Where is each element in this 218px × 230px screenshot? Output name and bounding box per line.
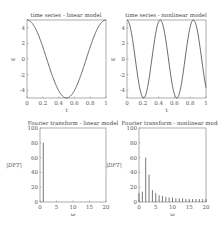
y-tick-label: 4: [22, 25, 26, 31]
subplot-title: time series - nonlinear model: [125, 12, 207, 18]
y-tick-label: 0: [35, 199, 39, 205]
y-tick-label: -2: [120, 72, 125, 78]
x-tick-label: 0.8: [186, 100, 195, 106]
subplot-4: Fourier transform - nonlinear model05101…: [106, 120, 218, 217]
y-tick-label: 60: [31, 155, 38, 161]
x-tick-label: 15: [186, 204, 193, 210]
y-tick-label: 0: [22, 56, 26, 62]
y-tick-label: -2: [20, 72, 25, 78]
figure: time series - linear model00.20.40.60.81…: [0, 0, 218, 230]
x-tick-label: 20: [103, 204, 110, 210]
x-tick-label: 10: [70, 204, 77, 210]
y-axis-label: |DFT|: [106, 162, 122, 169]
x-tick-label: 0: [25, 100, 29, 106]
x-axis-label: ω: [71, 211, 76, 217]
x-axis-label: t: [65, 107, 68, 113]
y-tick-label: 20: [31, 184, 38, 190]
series-line: [127, 20, 206, 98]
y-tick-label: 0: [134, 199, 138, 205]
y-tick-label: 0: [122, 56, 126, 62]
x-tick-label: 0.6: [170, 100, 179, 106]
plot-frame: [127, 20, 206, 98]
x-tick-label: 1: [204, 100, 208, 106]
x-tick-label: 0.2: [138, 100, 147, 106]
y-tick-label: 100: [28, 125, 39, 131]
series-line: [27, 20, 106, 98]
x-tick-label: 0.4: [154, 100, 163, 106]
x-tick-label: 0.6: [70, 100, 79, 106]
x-tick-label: 0: [137, 204, 141, 210]
subplot-1: time series - linear model00.20.40.60.81…: [11, 12, 108, 113]
y-tick-label: -4: [20, 87, 26, 93]
y-tick-label: 100: [127, 125, 138, 131]
y-tick-label: 2: [122, 40, 126, 46]
y-tick-label: -4: [120, 87, 126, 93]
plot-frame: [40, 128, 106, 202]
y-axis-label: |DFT|: [6, 162, 22, 169]
x-tick-label: 0: [125, 100, 129, 106]
x-tick-label: 0.2: [38, 100, 47, 106]
x-tick-label: 0.8: [86, 100, 95, 106]
x-tick-label: 20: [203, 204, 210, 210]
x-tick-label: 15: [86, 204, 93, 210]
y-tick-label: 80: [130, 140, 137, 146]
subplot-3: Fourier transform - linear model05101520…: [6, 120, 118, 217]
y-tick-label: 80: [31, 140, 38, 146]
x-tick-label: 1: [104, 100, 108, 106]
plot-frame: [27, 20, 106, 98]
y-tick-label: 40: [31, 169, 38, 175]
y-tick-label: 20: [130, 184, 137, 190]
x-tick-label: 0: [38, 204, 42, 210]
x-axis-label: ω: [170, 211, 175, 217]
x-axis-label: t: [165, 107, 168, 113]
y-tick-label: 4: [122, 25, 126, 31]
subplot-2: time series - nonlinear model00.20.40.60…: [111, 12, 208, 113]
y-tick-label: 60: [130, 155, 137, 161]
subplot-title: time series - linear model: [30, 12, 101, 18]
x-tick-label: 5: [154, 204, 158, 210]
subplot-title: Fourier transform - linear model: [28, 120, 119, 126]
y-axis-label: w: [11, 56, 16, 62]
x-tick-label: 0.4: [54, 100, 63, 106]
y-tick-label: 2: [22, 40, 26, 46]
y-axis-label: w: [111, 56, 116, 62]
y-tick-label: 40: [130, 169, 137, 175]
x-tick-label: 10: [169, 204, 176, 210]
x-tick-label: 5: [55, 204, 59, 210]
